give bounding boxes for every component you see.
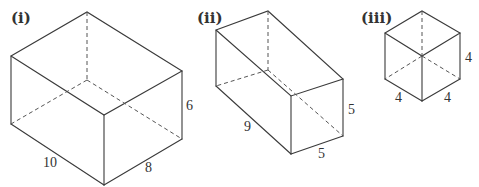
bottom-right-edge bbox=[104, 139, 182, 185]
hidden-right-edge bbox=[268, 70, 343, 136]
bottom-right-edge bbox=[291, 136, 343, 154]
width-label: 4 bbox=[444, 90, 451, 105]
bottom-left-edge bbox=[11, 124, 104, 185]
hidden-right-edge bbox=[87, 80, 182, 139]
bottom-left-edge bbox=[216, 86, 291, 154]
cuboid-figure-iii: (iii) 4 4 4 bbox=[361, 9, 472, 105]
bottom-left-edge bbox=[385, 79, 422, 101]
width-label: 8 bbox=[145, 160, 152, 175]
hidden-left-edge bbox=[11, 80, 87, 124]
top-face bbox=[216, 11, 343, 96]
length-label: 9 bbox=[244, 119, 251, 134]
figure-label-iii: (iii) bbox=[361, 9, 392, 27]
length-label: 10 bbox=[43, 155, 57, 170]
figure-label-i: (i) bbox=[11, 9, 31, 27]
figure-label-ii: (ii) bbox=[197, 9, 223, 27]
width-label: 5 bbox=[318, 146, 325, 161]
cuboid-diagram: (i) 10 8 6 (ii) 9 5 5 (iii) bbox=[0, 0, 479, 187]
cuboid-figure-i: (i) 10 8 6 bbox=[11, 9, 193, 185]
height-label: 6 bbox=[186, 98, 193, 113]
length-label: 4 bbox=[395, 90, 402, 105]
hidden-right-edge bbox=[422, 56, 460, 79]
bottom-right-edge bbox=[422, 79, 460, 101]
height-label: 5 bbox=[348, 102, 355, 117]
cuboid-figure-ii: (ii) 9 5 5 bbox=[197, 9, 355, 161]
top-face bbox=[11, 12, 182, 115]
hidden-left-edge bbox=[385, 56, 422, 79]
hidden-left-edge bbox=[216, 70, 268, 86]
height-label: 4 bbox=[465, 50, 472, 65]
